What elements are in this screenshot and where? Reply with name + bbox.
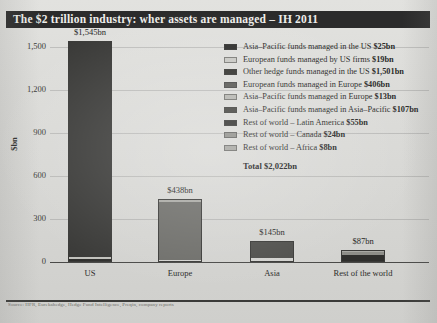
bar-group[interactable]: $145bn (250, 239, 294, 262)
legend-item[interactable]: Asia–Pacific funds managed in the US $25… (224, 41, 432, 54)
legend-swatch (224, 132, 237, 138)
bar-group[interactable]: $87bn (341, 248, 385, 262)
legend-swatch (224, 82, 237, 88)
legend-item-value: $107bn (393, 105, 419, 114)
y-axis-label: $bn (9, 124, 19, 164)
legend-item[interactable]: Rest of world – Canada $24bn (224, 129, 432, 142)
legend-swatch (224, 120, 237, 126)
legend-item-value: $25bn (373, 42, 395, 51)
legend-item[interactable]: Rest of world – Africa $8bn (224, 142, 432, 155)
legend-total: Total $2,022bn (243, 161, 297, 171)
legend-item-value: $19bn (372, 55, 394, 64)
legend-item-label: European funds managed by US firms $19bn (243, 54, 394, 66)
bar-group[interactable]: $438bn (158, 197, 202, 262)
y-axis-tick-label: 0 (6, 257, 46, 266)
legend-item[interactable]: European funds managed by US firms $19bn (224, 54, 432, 67)
legend-swatch (224, 107, 237, 113)
legend-item[interactable]: Rest of world – Latin America $55bn (224, 117, 432, 130)
legend-rows: Asia–Pacific funds managed in the US $25… (224, 41, 432, 154)
legend-item-label: Asia–Pacific funds managed in Europe $13… (243, 91, 396, 103)
legend-swatch (224, 69, 237, 75)
bar[interactable] (250, 241, 294, 262)
legend-swatch (224, 57, 237, 63)
legend-item-label: Asia–Pacific funds managed in the US $25… (243, 41, 395, 53)
legend-item-value: $8bn (319, 143, 337, 152)
legend-item-value: $55bn (346, 118, 368, 127)
legend-item-value: $13bn (375, 92, 397, 101)
chart-page: The $2 trillion industry: wher assets ar… (0, 0, 437, 323)
bar[interactable] (341, 250, 385, 262)
legend-item[interactable]: Asia–Pacific funds managed in Europe $13… (224, 91, 432, 104)
bar-group[interactable]: $1,545bn (68, 39, 112, 262)
bar-segment[interactable] (342, 255, 384, 262)
legend-item[interactable]: Asia–Pacific funds managed in Asia–Pacif… (224, 104, 432, 117)
legend-item[interactable]: European funds managed in Europe $406bn (224, 79, 432, 92)
legend-item-label: Rest of world – Africa $8bn (243, 142, 337, 154)
x-axis-category-label: Rest of the world (293, 268, 433, 278)
legend-item-value: $406bn (364, 80, 390, 89)
legend-item-label: European funds managed in Europe $406bn (243, 79, 390, 91)
legend-item-value: $24bn (323, 130, 345, 139)
legend-swatch (224, 145, 237, 151)
legend-item-label: Asia–Pacific funds managed in Asia–Pacif… (243, 104, 418, 116)
bar-segment[interactable] (69, 259, 111, 262)
bar-segment[interactable] (159, 202, 201, 260)
bar-segment[interactable] (69, 42, 111, 257)
page-title: The $2 trillion industry: wher assets ar… (13, 12, 318, 27)
legend-swatch (224, 44, 237, 50)
bar-value-label: $438bn (120, 185, 240, 195)
chart-legend: Asia–Pacific funds managed in the US $25… (224, 41, 432, 154)
source-note: Source: HFR, Eurekahedge, Hedge Fund Int… (8, 302, 338, 307)
legend-item[interactable]: Other hedge funds managed in the US $1,5… (224, 66, 432, 79)
legend-item-label: Rest of world – Canada $24bn (243, 129, 345, 141)
y-axis-tick-label: 1,500 (6, 42, 46, 51)
legend-swatch (224, 94, 237, 100)
legend-item-label: Other hedge funds managed in the US $1,5… (243, 66, 404, 78)
chart-title-bar: The $2 trillion industry: wher assets ar… (6, 11, 430, 28)
bar-value-label: $87bn (303, 236, 423, 246)
y-axis-tick-label: 300 (6, 214, 46, 223)
x-axis-line (50, 262, 429, 263)
legend-item-value: $1,501bn (372, 67, 404, 76)
bar-value-label: $1,545bn (30, 27, 150, 37)
y-axis-tick-label: 1,200 (6, 85, 46, 94)
legend-item-label: Rest of world – Latin America $55bn (243, 117, 368, 129)
y-axis-tick-label: 600 (6, 171, 46, 180)
bar[interactable] (68, 41, 112, 262)
bar-segment[interactable] (251, 242, 293, 257)
bar[interactable] (158, 199, 202, 262)
